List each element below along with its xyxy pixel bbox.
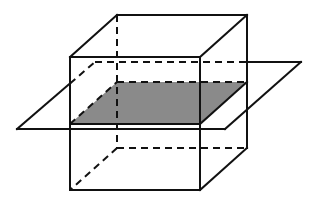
diagram-canvas [0, 0, 314, 199]
plane-left-edge-visible [17, 83, 70, 129]
cube-top-left-edge [70, 15, 117, 57]
plane-left-edge-hidden [70, 62, 95, 83]
cross-section-shaded [70, 82, 247, 124]
cube-hidden-edge-bottom-left [70, 148, 117, 190]
cube-plane-diagram [0, 0, 314, 199]
cube-top-right-edge [200, 15, 247, 57]
cube-bottom-right-edge [200, 148, 247, 190]
plane-right-edge [225, 62, 301, 129]
